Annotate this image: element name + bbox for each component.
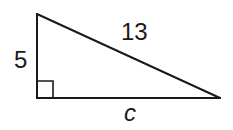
right-triangle-diagram: 5 13 c	[0, 0, 233, 130]
label-vertical-leg: 5	[14, 46, 27, 73]
label-horizontal-leg: c	[124, 99, 136, 126]
label-hypotenuse: 13	[121, 18, 148, 45]
right-angle-marker-icon	[37, 81, 53, 98]
